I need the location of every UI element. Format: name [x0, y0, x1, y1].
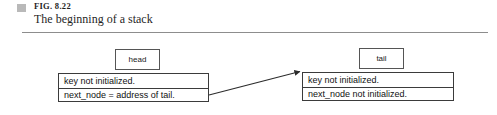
pointer-box-tail: tail [359, 48, 404, 69]
stack-diagram: head tail key not initialized. next_node… [0, 34, 497, 115]
figure-marker-icon [17, 4, 26, 12]
arrow-line [209, 72, 300, 96]
horizontal-rule [22, 32, 488, 33]
node-head-row-next: next_node = address of tail. [59, 88, 208, 102]
node-tail-row-key: key not initialized. [303, 73, 453, 87]
figure-header: FIG. 8.22 The beginning of a stack [0, 0, 497, 34]
figure-number: FIG. 8.22 [34, 1, 71, 11]
node-tail-row-next: next_node not initialized. [303, 87, 453, 101]
figure-caption: The beginning of a stack [34, 12, 153, 27]
node-head-row-key: key not initialized. [59, 74, 208, 88]
pointer-label-tail: tail [376, 54, 386, 63]
node-tail: key not initialized. next_node not initi… [302, 72, 454, 101]
node-head: key not initialized. next_node = address… [58, 73, 209, 102]
pointer-label-head: head [129, 55, 147, 64]
pointer-box-head: head [115, 49, 160, 70]
